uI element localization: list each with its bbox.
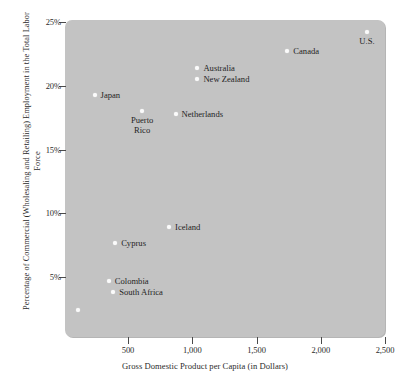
y-tick-label: 5%	[50, 272, 61, 282]
y-tick-label: 10%	[46, 208, 61, 218]
y-tick-label: 25%	[46, 17, 61, 27]
data-point-label: Iceland	[175, 222, 200, 232]
data-point-label: PuertoRico	[112, 115, 172, 135]
x-axis-title: Gross Domestic Product per Capita (in Do…	[0, 361, 410, 371]
x-tick-mark	[321, 337, 322, 344]
data-point-label: South Africa	[119, 287, 163, 297]
data-point-label: U.S.	[337, 36, 397, 46]
y-tick-label: 20%	[46, 81, 61, 91]
x-tick-mark	[257, 337, 258, 344]
data-point-label: Canada	[293, 46, 319, 56]
x-tick-label: 500	[122, 345, 134, 355]
x-tick-label: 2,500	[376, 345, 395, 355]
x-tick-label: 1,000	[183, 345, 202, 355]
data-point-label: Japan	[101, 90, 121, 100]
data-point[interactable]	[93, 93, 97, 97]
x-tick-label: 2,000	[311, 345, 330, 355]
data-point-label: Cyprus	[121, 238, 146, 248]
x-tick-mark	[128, 337, 129, 344]
data-point-label: Colombia	[115, 276, 149, 286]
x-tick-label: 1,500	[247, 345, 266, 355]
data-point-label: Netherlands	[182, 109, 224, 119]
data-point-label: New Zealand	[203, 74, 249, 84]
data-point[interactable]	[76, 308, 80, 312]
scatter-chart-figure: 25%20%15%10%5% 5001,0001,5002,0002,500 U…	[0, 0, 410, 386]
y-axis-title: Percentage of Commercial (Wholesaling an…	[21, 11, 43, 311]
data-point[interactable]	[113, 241, 117, 245]
data-point[interactable]	[107, 279, 111, 283]
data-point[interactable]	[174, 112, 178, 116]
x-tick-mark	[385, 337, 386, 344]
y-tick-label: 15%	[46, 145, 61, 155]
x-tick-mark	[192, 337, 193, 344]
data-point-label: Australia	[203, 63, 235, 73]
